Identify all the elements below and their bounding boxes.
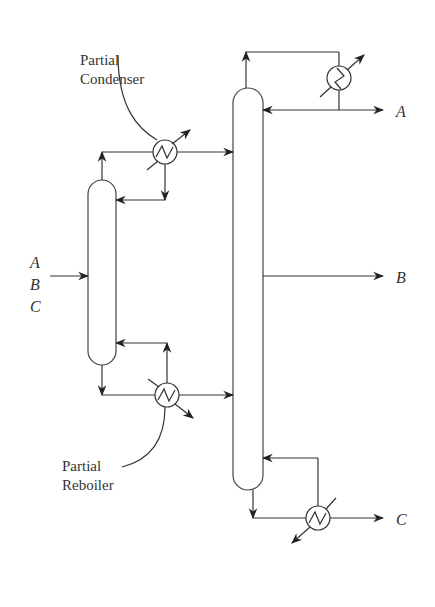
product-b-label: B (396, 269, 406, 286)
main-condenser (320, 55, 364, 97)
diagram-canvas: A B C Partial Condenser Partial Reboiler (0, 0, 435, 607)
partial-reboiler-label-1: Partial (62, 458, 101, 474)
partial-condenser-label-2: Condenser (80, 71, 144, 87)
main-reboiler (292, 498, 336, 543)
feed-component-c: C (30, 298, 41, 315)
feed-component-b: B (30, 276, 40, 293)
main-column (233, 88, 263, 490)
partial-condenser (147, 130, 190, 170)
partial-reboiler-label-2: Reboiler (62, 477, 114, 493)
partial-condenser-leader (118, 55, 157, 140)
partial-reboiler-leader (122, 407, 165, 467)
partial-condenser-label-1: Partial (80, 52, 119, 68)
product-c-label: C (396, 511, 407, 528)
feed-component-a: A (29, 254, 40, 271)
main-overhead (246, 52, 383, 110)
partial-reboiler (148, 379, 193, 418)
feed-label: A B C (29, 254, 41, 315)
prefractionator-column (88, 180, 116, 365)
product-a-label: A (395, 103, 406, 120)
